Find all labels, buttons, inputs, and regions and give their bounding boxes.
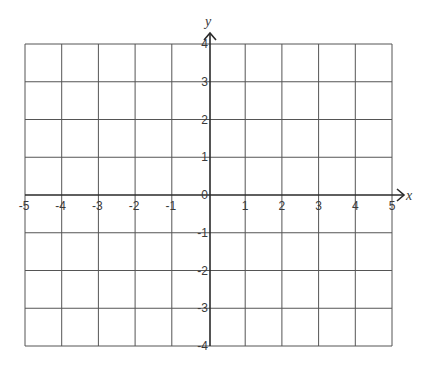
x-tick-label: -2: [129, 199, 140, 213]
y-tick-label: 2: [201, 113, 208, 127]
x-tick-label: 3: [315, 199, 322, 213]
y-tick-label: -1: [197, 226, 208, 240]
x-tick-label: -4: [55, 199, 66, 213]
x-tick-label: -3: [92, 199, 103, 213]
y-tick-label: 3: [201, 75, 208, 89]
x-tick-label: 5: [389, 199, 396, 213]
y-tick-label: -4: [197, 339, 208, 353]
y-tick-label: -2: [197, 264, 208, 278]
x-tick-label: -1: [165, 199, 176, 213]
x-axis-label: x: [405, 188, 413, 203]
coordinate-plane: x y -5-4-3-2-112345 43210-1-2-3-4: [0, 0, 436, 372]
y-axis-label: y: [203, 14, 212, 29]
x-tick-label: 2: [279, 199, 286, 213]
x-tick-label: -5: [19, 199, 30, 213]
y-tick-label: 4: [201, 37, 208, 51]
y-tick-label: 1: [201, 150, 208, 164]
y-tick-label: 0: [201, 188, 208, 202]
x-tick-label: 1: [242, 199, 249, 213]
y-tick-label: -3: [197, 301, 208, 315]
x-tick-label: 4: [352, 199, 359, 213]
